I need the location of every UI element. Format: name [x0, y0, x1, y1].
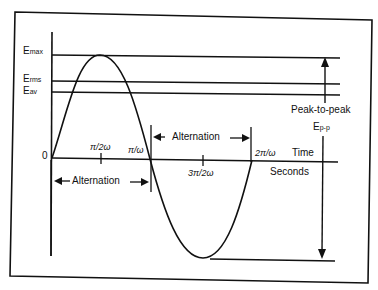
label-epp: Ep-p	[313, 122, 330, 132]
label-alternation-1: Alternation	[72, 176, 120, 186]
label-erms: Erms	[23, 74, 41, 84]
eav-line	[52, 92, 340, 95]
tick-label-2pi-w: 2π/ω	[255, 149, 276, 158]
arrow-right-icon	[141, 178, 149, 186]
label-eav: Eav	[23, 86, 37, 96]
sine-wave	[52, 55, 252, 258]
peak-to-peak-arrow-lower	[322, 136, 323, 252]
time-axis	[52, 158, 338, 162]
label-emax: Emax	[23, 46, 43, 56]
emin-line	[210, 259, 335, 261]
tick-label-3pi-2w: 3π/2ω	[188, 169, 214, 178]
tick-label-pi-w: π/ω	[128, 146, 144, 155]
label-peak-to-peak: Peak-to-peak	[291, 105, 350, 115]
arrow-right-icon	[242, 134, 250, 142]
arrow-down-icon	[318, 249, 326, 259]
label-seconds: Seconds	[270, 167, 309, 177]
tick-label-pi-2w: π/2ω	[90, 143, 111, 152]
frame-border	[10, 12, 372, 283]
arrow-left-icon	[153, 133, 161, 141]
label-time: Time	[292, 148, 314, 158]
label-alternation-2: Alternation	[172, 132, 220, 142]
label-zero: 0	[42, 151, 48, 161]
arrow-left-icon	[54, 177, 62, 185]
erms-line	[52, 81, 340, 84]
sine-wave-diagram	[0, 0, 378, 290]
